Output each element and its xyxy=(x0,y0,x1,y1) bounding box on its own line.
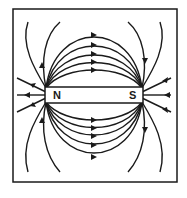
south-pole-label: S xyxy=(129,89,136,101)
bar-magnet-field-diagram: N S xyxy=(0,0,187,198)
north-pole-label: N xyxy=(53,89,61,101)
